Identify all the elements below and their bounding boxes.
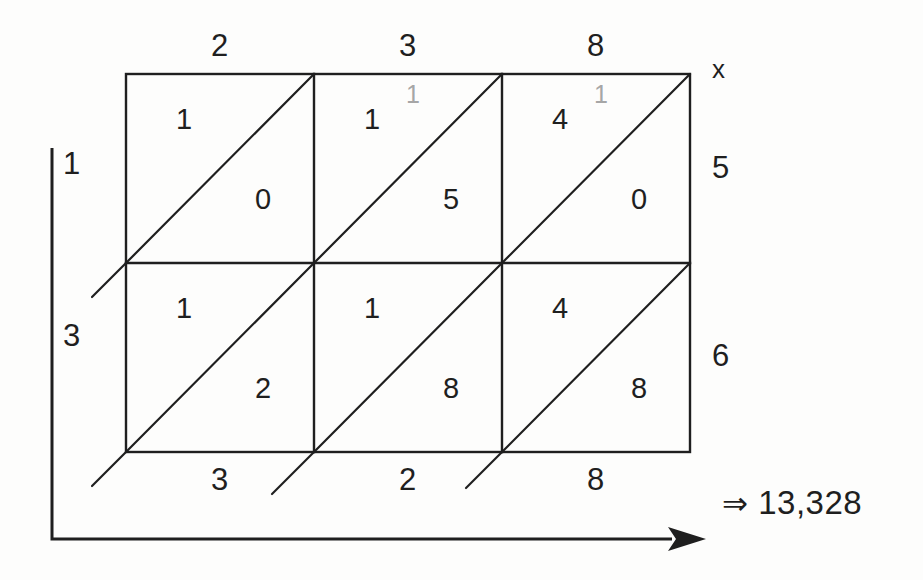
cell-lower-r0c1: 5 — [443, 185, 459, 214]
cell-upper-r1c2: 4 — [552, 294, 568, 323]
cell-lower-r0c2: 0 — [631, 185, 647, 214]
cell-diagonal-r1c2 — [502, 263, 690, 452]
bottom-label-0: 3 — [211, 464, 228, 495]
top-label-2: 8 — [587, 30, 604, 61]
cell-diagonal-r1c1 — [314, 263, 502, 452]
reading-path — [52, 148, 672, 539]
result-readout: ⇒ 13,328 — [722, 486, 862, 519]
cell-diagonal-r0c0 — [126, 74, 314, 263]
cell-upper-r1c1: 1 — [364, 294, 380, 323]
bottom-label-2: 8 — [587, 464, 604, 495]
cell-upper-r0c0: 1 — [176, 105, 192, 134]
top-label-1: 3 — [399, 30, 416, 61]
bottom-label-1: 2 — [399, 464, 416, 495]
right-label-1: 6 — [712, 340, 729, 371]
left-label-1: 3 — [63, 320, 80, 351]
cell-diagonal-r1c0 — [126, 263, 314, 452]
result-value: 13,328 — [758, 484, 862, 521]
lattice-diagram: 2 3 8 x 5 6 1 3 3 2 8 1 0 1 5 1 4 0 1 1 … — [0, 0, 923, 580]
cell-carry-r0c1: 1 — [406, 82, 420, 107]
top-label-0: 2 — [211, 30, 228, 61]
right-label-0: 5 — [712, 152, 729, 183]
x-marker: x — [712, 56, 725, 82]
cell-upper-r1c0: 1 — [176, 294, 192, 323]
cell-carry-r0c2: 1 — [594, 82, 608, 107]
diagonal-tail-col2 — [466, 452, 502, 488]
cell-upper-r0c2: 4 — [552, 105, 568, 134]
left-label-0: 1 — [63, 148, 80, 179]
reading-path-arrowhead — [668, 527, 706, 551]
diagonal-tail-row1 — [92, 452, 126, 486]
diagonal-tail-col1 — [272, 452, 314, 494]
cell-lower-r1c1: 8 — [443, 374, 459, 403]
diagonal-tail-row0 — [92, 263, 126, 297]
implies-arrow-icon: ⇒ — [722, 486, 749, 521]
cell-lower-r1c0: 2 — [255, 374, 271, 403]
cell-lower-r1c2: 8 — [631, 374, 647, 403]
cell-upper-r0c1: 1 — [364, 105, 380, 134]
cell-lower-r0c0: 0 — [255, 185, 271, 214]
